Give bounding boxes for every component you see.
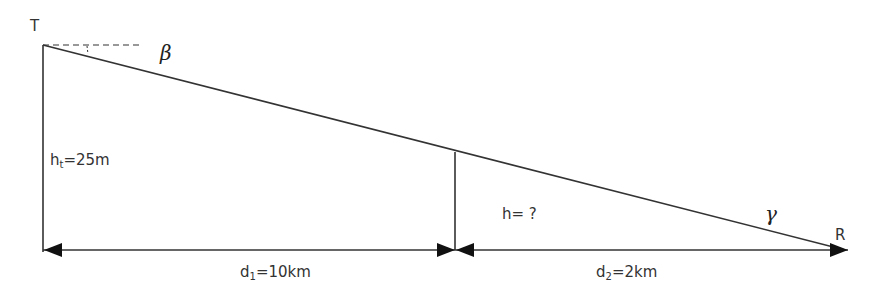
d2-left-arrowhead [456, 243, 474, 257]
line-of-sight [43, 45, 845, 250]
transmitter-label: T [29, 17, 40, 35]
obstacle-height-label: h= ? [502, 205, 537, 223]
d2-right-arrowhead [830, 243, 848, 257]
d1-label: d1=10km [240, 263, 311, 282]
diagram-canvas: T R β γ ht=25m h= ? d1=10km d2=2km [0, 0, 885, 295]
d1-left-arrowhead [44, 243, 62, 257]
beta-symbol: β [159, 41, 172, 65]
receiver-label: R [835, 226, 845, 244]
transmitter-height-label: ht=25m [50, 151, 110, 170]
beta-angle-arc [87, 46, 88, 54]
d2-label: d2=2km [596, 263, 657, 282]
d1-right-arrowhead [437, 243, 455, 257]
gamma-symbol: γ [765, 202, 777, 226]
